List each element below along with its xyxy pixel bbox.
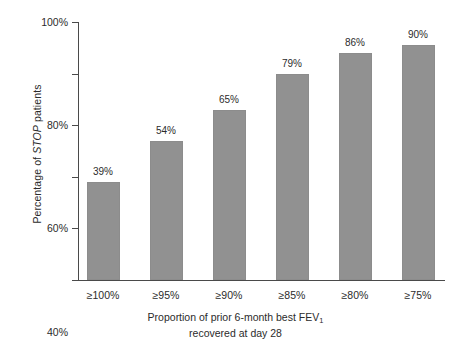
- bar-value-label: 86%: [345, 37, 365, 48]
- bar-value-label: 39%: [93, 166, 113, 177]
- bar-value-label: 79%: [282, 58, 302, 69]
- x-tick-label: ≥85%: [279, 289, 306, 301]
- bar[interactable]: [87, 182, 120, 280]
- y-axis-line: [78, 22, 79, 280]
- x-axis-line: [78, 280, 445, 281]
- y-axis-title-prefix: Percentage of: [31, 154, 43, 224]
- bar-value-label: 90%: [408, 29, 428, 40]
- y-tick-mark: 0%: [72, 280, 78, 281]
- bar-value-label: 65%: [219, 94, 239, 105]
- plot-area: 0%20%40%60%80%100% 39%54%65%79%86%90% ≥1…: [78, 22, 445, 280]
- y-tick-mark: 60%: [72, 125, 78, 126]
- bar[interactable]: [402, 45, 435, 280]
- y-tick-mark: 80%: [72, 74, 78, 75]
- bar[interactable]: [150, 141, 183, 280]
- bar-value-label: 54%: [156, 125, 176, 136]
- x-axis-title-subscript: 1: [319, 316, 323, 325]
- x-axis-title-line2: recovered at day 28: [189, 327, 282, 339]
- y-tick-label: 60%: [28, 222, 68, 234]
- chart-figure: Percentage of STOP patients 0%20%40%60%8…: [0, 0, 471, 347]
- y-tick-label: 80%: [28, 119, 68, 131]
- x-tick-label: ≥90%: [216, 289, 243, 301]
- y-tick-label: 100%: [28, 16, 68, 28]
- x-tick-label: ≥80%: [342, 289, 369, 301]
- x-tick-label: ≥100%: [87, 289, 120, 301]
- x-axis-title: Proportion of prior 6-month best FEV1 re…: [0, 310, 471, 340]
- y-tick-mark: 20%: [72, 228, 78, 229]
- y-tick-mark: 100%: [72, 22, 78, 23]
- x-axis-title-line1: Proportion of prior 6-month best FEV: [148, 311, 320, 323]
- y-axis-title: Percentage of STOP patients: [31, 34, 43, 274]
- y-tick-mark: 40%: [72, 177, 78, 178]
- x-tick-label: ≥75%: [405, 289, 432, 301]
- x-tick-label: ≥95%: [153, 289, 180, 301]
- bar[interactable]: [213, 110, 246, 280]
- bar[interactable]: [339, 53, 372, 280]
- bar[interactable]: [276, 74, 309, 280]
